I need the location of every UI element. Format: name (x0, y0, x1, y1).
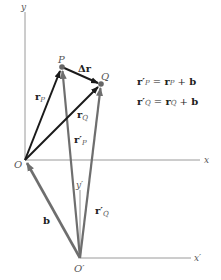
y-axis-label: y (20, 2, 27, 12)
point-p (59, 64, 65, 70)
origin-o-prime-label: O′ (74, 263, 85, 274)
x-prime-axis-label: x′ (194, 253, 201, 263)
b-label: b (43, 215, 50, 226)
delta-r-label: Δr (78, 63, 92, 74)
point-q-label: Q (101, 71, 109, 82)
equation-r-prime-p: r′P = rP + b (137, 76, 196, 87)
x-axis-label: x (204, 155, 209, 165)
point-p-label: P (57, 54, 65, 65)
r-p-label: rP (35, 91, 45, 104)
point-q (98, 81, 104, 87)
vector-r-p (25, 71, 60, 160)
origin-o-label: O (14, 159, 22, 170)
relative-motion-diagram: y x y′ x′ P Q O O′ Δr rP rQ r′P r′Q b (0, 0, 221, 280)
y-prime-axis-label: y′ (75, 180, 83, 190)
equation-r-prime-q: r′Q = rQ + b (137, 96, 198, 107)
r-q-label: rQ (77, 109, 88, 122)
r-prime-p-label: r′P (74, 134, 87, 147)
r-prime-q-label: r′Q (95, 205, 109, 218)
